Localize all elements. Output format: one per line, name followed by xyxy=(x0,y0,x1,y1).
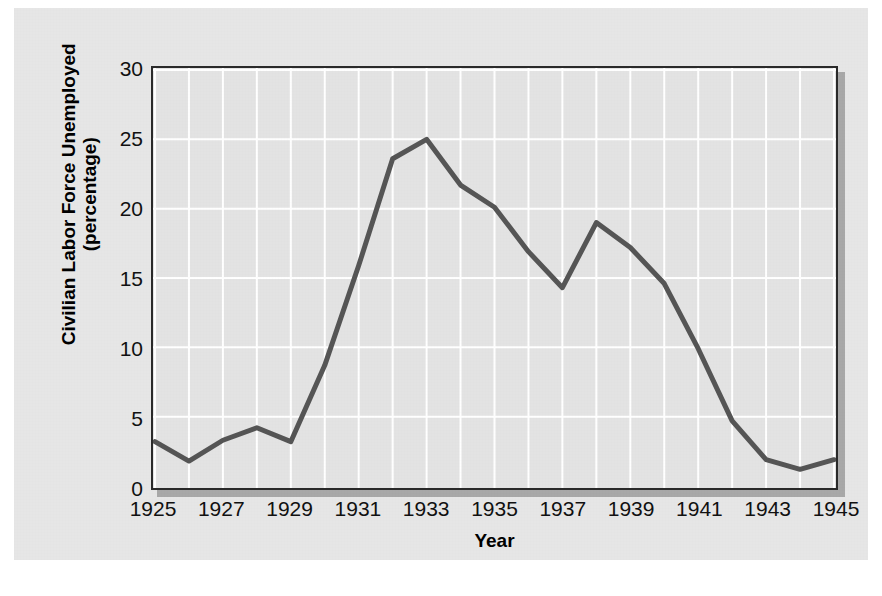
y-tick-label: 20 xyxy=(101,198,143,219)
figure-card: Civilian Labor Force Unemployed (percent… xyxy=(14,8,868,560)
y-tick-label: 0 xyxy=(101,478,143,499)
x-axis-title: Year xyxy=(151,530,838,552)
y-tick-label: 5 xyxy=(101,408,143,429)
y-tick-label: 25 xyxy=(101,128,143,149)
plot-area xyxy=(151,66,838,490)
x-tick-label: 1945 xyxy=(796,498,876,519)
y-tick-label: 10 xyxy=(101,338,143,359)
x-axis-tick-labels: 1925192719291931193319351937193919411943… xyxy=(151,498,838,524)
y-axis-tick-labels: 051015202530 xyxy=(99,66,143,490)
unemployment-line xyxy=(155,139,834,469)
y-tick-label: 30 xyxy=(101,58,143,79)
chart-figure: Civilian Labor Force Unemployed (percent… xyxy=(0,0,882,596)
y-axis-title-line1: Civilian Labor Force Unemployed xyxy=(58,0,79,404)
y-axis-title: Civilian Labor Force Unemployed (percent… xyxy=(58,0,101,404)
y-axis-title-line2: (percentage) xyxy=(79,0,100,404)
data-line-series xyxy=(153,68,836,488)
y-tick-label: 15 xyxy=(101,268,143,289)
